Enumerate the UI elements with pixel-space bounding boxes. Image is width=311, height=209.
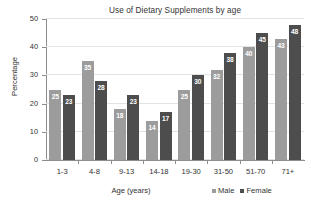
- bar-group: 2530: [175, 19, 207, 160]
- bar-group: 3238: [207, 19, 239, 160]
- bar-group: 1417: [143, 19, 175, 160]
- bar-male[interactable]: 18: [114, 109, 126, 160]
- legend-swatch-icon: [212, 189, 216, 193]
- x-category-label: 9-13: [111, 167, 143, 176]
- y-tick-label: 50: [20, 15, 38, 22]
- bar-male[interactable]: 14: [146, 121, 158, 160]
- x-tick-mark: [207, 161, 208, 164]
- bar-value-label: 30: [192, 79, 204, 86]
- bar-value-label: 32: [211, 74, 223, 81]
- bar-value-label: 38: [224, 57, 236, 64]
- legend-label: Female: [246, 186, 271, 195]
- y-tick-label: 20: [20, 100, 38, 107]
- bar-value-label: 35: [82, 65, 94, 72]
- chart-title: Use of Dietary Supplements by age: [46, 6, 304, 15]
- bar-value-label: 28: [95, 85, 107, 92]
- bar-group: 4348: [272, 19, 304, 160]
- bar-female[interactable]: 28: [95, 81, 107, 160]
- bar-value-label: 23: [127, 99, 139, 106]
- y-axis-title: Percentage: [10, 32, 19, 122]
- y-tick-label: 10: [20, 128, 38, 135]
- bar-value-label: 25: [178, 94, 190, 101]
- x-category-label: 19-30: [175, 167, 207, 176]
- bar-value-label: 14: [146, 125, 158, 132]
- plot-area: 25233528182314172530323840454348: [46, 19, 304, 160]
- bar-group: 3528: [78, 19, 110, 160]
- bar-male[interactable]: 35: [82, 61, 94, 160]
- y-tick-label: 30: [20, 71, 38, 78]
- legend-label: Male: [218, 186, 234, 195]
- x-category-label: 1-3: [46, 167, 78, 176]
- x-tick-mark: [272, 161, 273, 164]
- bar-chart: Use of Dietary Supplements by age Percen…: [0, 0, 311, 209]
- bar-male[interactable]: 43: [275, 39, 287, 160]
- bar-female[interactable]: 23: [127, 95, 139, 160]
- bar-value-label: 17: [160, 116, 172, 123]
- bar-female[interactable]: 45: [256, 33, 268, 160]
- chart-legend: MaleFemale: [212, 186, 272, 195]
- legend-item-female[interactable]: Female: [240, 186, 271, 195]
- x-category-label: 51-70: [240, 167, 272, 176]
- bar-female[interactable]: 30: [192, 75, 204, 160]
- bar-female[interactable]: 48: [289, 25, 301, 160]
- x-tick-mark: [143, 161, 144, 164]
- bar-female[interactable]: 17: [160, 112, 172, 160]
- x-tick-mark: [111, 161, 112, 164]
- x-tick-mark: [175, 161, 176, 164]
- x-category-label: 4-8: [78, 167, 110, 176]
- bar-group: 4045: [240, 19, 272, 160]
- bar-female[interactable]: 38: [224, 53, 236, 160]
- y-tick-label: 0: [20, 156, 38, 163]
- x-axis-title: Age (years): [46, 186, 216, 195]
- bar-value-label: 25: [49, 94, 61, 101]
- bar-value-label: 45: [256, 37, 268, 44]
- x-tick-mark: [78, 161, 79, 164]
- bar-value-label: 40: [243, 51, 255, 58]
- bar-group: 1823: [111, 19, 143, 160]
- bar-male[interactable]: 25: [49, 90, 61, 161]
- bar-value-label: 48: [289, 29, 301, 36]
- y-tick-label: 40: [20, 43, 38, 50]
- bar-female[interactable]: 23: [63, 95, 75, 160]
- bar-value-label: 18: [114, 113, 126, 120]
- x-category-label: 71+: [272, 167, 304, 176]
- x-category-label: 14-18: [143, 167, 175, 176]
- bar-group: 2523: [46, 19, 78, 160]
- legend-swatch-icon: [240, 189, 244, 193]
- x-category-label: 31-50: [207, 167, 239, 176]
- bar-male[interactable]: 32: [211, 70, 223, 160]
- bar-male[interactable]: 25: [178, 90, 190, 161]
- x-tick-mark: [240, 161, 241, 164]
- bar-value-label: 43: [275, 43, 287, 50]
- bar-male[interactable]: 40: [243, 47, 255, 160]
- bar-value-label: 23: [63, 99, 75, 106]
- legend-item-male[interactable]: Male: [212, 186, 234, 195]
